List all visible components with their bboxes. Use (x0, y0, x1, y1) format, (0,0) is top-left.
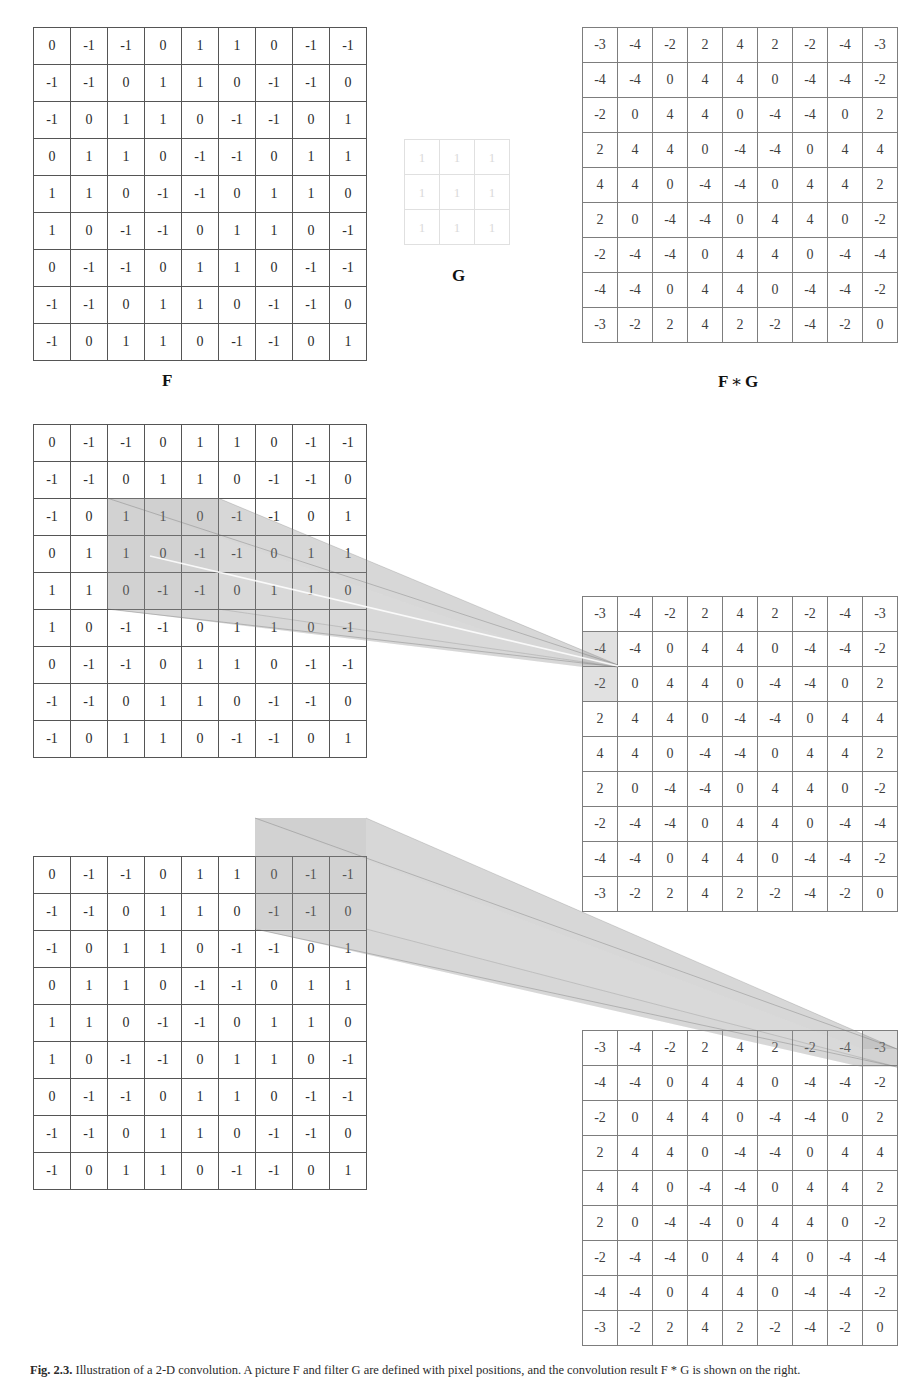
matrix-f-top-cell-r2-c3: 0 (108, 65, 145, 102)
matrix-f-top-cell-r9-c2: 0 (71, 324, 108, 361)
matrix-f-bottom-cell-r1-c7: 0 (256, 857, 293, 894)
matrix-f-top-cell-r1-c9: -1 (330, 28, 367, 65)
matrix-f-top-row: 0-1-10110-1-1 (34, 28, 367, 65)
matrix-fg-bottom-cell-r6-c5: 0 (723, 1206, 758, 1241)
matrix-fg-bottom-cell-r1-c4: 2 (688, 1031, 723, 1066)
matrix-f-top-cell-r8-c8: -1 (293, 287, 330, 324)
matrix-f-bottom-cell-r4-c7: 0 (256, 968, 293, 1005)
matrix-fg-bottom-cell-r1-c5: 4 (723, 1031, 758, 1066)
matrix-fg-top-cell-r4-c9: 4 (863, 133, 898, 168)
matrix-fg-middle-cell-r7-c9: -4 (863, 807, 898, 842)
matrix-f-bottom-cell-r2-c3: 0 (108, 894, 145, 931)
matrix-fg-bottom-cell-r7-c9: -4 (863, 1241, 898, 1276)
matrix-f-bottom-cell-r6-c4: -1 (145, 1042, 182, 1079)
matrix-fg-bottom-row: 2440-4-4044 (583, 1136, 898, 1171)
matrix-fg-middle-cell-r9-c2: -2 (618, 877, 653, 912)
matrix-f-bottom-cell-r9-c5: 0 (182, 1153, 219, 1190)
matrix-f-middle-cell-r6-c7: 1 (256, 610, 293, 647)
matrix-f-middle-cell-r2-c4: 1 (145, 462, 182, 499)
matrix-fg-middle: -3-4-2242-2-4-3-4-40440-4-4-2-20440-4-40… (582, 596, 898, 912)
matrix-f-middle-cell-r5-c1: 1 (34, 573, 71, 610)
matrix-f-middle-cell-r4-c7: 0 (256, 536, 293, 573)
matrix-fg-top-row: -3-4-2242-2-4-3 (583, 28, 898, 63)
matrix-fg-bottom-row: -3-2242-2-4-20 (583, 1311, 898, 1346)
matrix-f-middle-cell-r3-c4: 1 (145, 499, 182, 536)
matrix-fg-middle-cell-r6-c7: 4 (793, 772, 828, 807)
matrix-f-top-cell-r6-c8: 0 (293, 213, 330, 250)
matrix-f-bottom-cell-r2-c5: 1 (182, 894, 219, 931)
matrix-fg-top-cell-r2-c8: -4 (828, 63, 863, 98)
matrix-fg-top-cell-r6-c3: -4 (653, 203, 688, 238)
matrix-f-top-cell-r9-c7: -1 (256, 324, 293, 361)
matrix-f-top-cell-r8-c1: -1 (34, 287, 71, 324)
matrix-f-middle-row: -10110-1-101 (34, 499, 367, 536)
matrix-fg-bottom-cell-r2-c5: 4 (723, 1066, 758, 1101)
matrix-fg-middle-cell-r2-c8: -4 (828, 632, 863, 667)
matrix-f-bottom-cell-r2-c6: 0 (219, 894, 256, 931)
matrix-fg-bottom-row: -3-4-2242-2-4-3 (583, 1031, 898, 1066)
matrix-fg-bottom-cell-r7-c5: 4 (723, 1241, 758, 1276)
matrix-fg-middle-cell-r3-c8: 0 (828, 667, 863, 702)
matrix-fg-bottom-cell-r2-c6: 0 (758, 1066, 793, 1101)
matrix-f-middle-cell-r8-c5: 1 (182, 684, 219, 721)
matrix-fg-bottom-cell-r1-c6: 2 (758, 1031, 793, 1066)
matrix-f-bottom-cell-r7-c4: 0 (145, 1079, 182, 1116)
matrix-f-middle-cell-r6-c4: -1 (145, 610, 182, 647)
matrix-fg-bottom-cell-r7-c8: -4 (828, 1241, 863, 1276)
matrix-fg-middle-cell-r3-c2: 0 (618, 667, 653, 702)
matrix-fg-top-cell-r1-c6: 2 (758, 28, 793, 63)
matrix-fg-top-cell-r2-c6: 0 (758, 63, 793, 98)
matrix-f-bottom-cell-r3-c2: 0 (71, 931, 108, 968)
matrix-fg-top-cell-r1-c1: -3 (583, 28, 618, 63)
matrix-fg-bottom-cell-r3-c5: 0 (723, 1101, 758, 1136)
matrix-fg-bottom-cell-r5-c1: 4 (583, 1171, 618, 1206)
matrix-f-bottom-cell-r9-c1: -1 (34, 1153, 71, 1190)
matrix-fg-top-cell-r5-c1: 4 (583, 168, 618, 203)
matrix-f-bottom-cell-r3-c6: -1 (219, 931, 256, 968)
matrix-fg-middle-cell-r8-c8: -4 (828, 842, 863, 877)
matrix-fg-middle-cell-r9-c5: 2 (723, 877, 758, 912)
matrix-fg-top-cell-r3-c2: 0 (618, 98, 653, 133)
matrix-fg-middle-cell-r9-c1: -3 (583, 877, 618, 912)
matrix-fg-top-cell-r1-c2: -4 (618, 28, 653, 63)
matrix-f-bottom-row: -1-10110-1-10 (34, 1116, 367, 1153)
matrix-fg-bottom-cell-r3-c2: 0 (618, 1101, 653, 1136)
matrix-fg-top-row: -4-40440-4-4-2 (583, 273, 898, 308)
matrix-f-bottom-cell-r2-c1: -1 (34, 894, 71, 931)
matrix-f-bottom-cell-r5-c7: 1 (256, 1005, 293, 1042)
matrix-fg-top-cell-r5-c5: -4 (723, 168, 758, 203)
matrix-f-top-cell-r2-c6: 0 (219, 65, 256, 102)
matrix-fg-top-cell-r6-c4: -4 (688, 203, 723, 238)
matrix-fg-bottom-cell-r4-c8: 4 (828, 1136, 863, 1171)
matrix-fg-bottom-cell-r4-c5: -4 (723, 1136, 758, 1171)
matrix-fg-middle-cell-r5-c1: 4 (583, 737, 618, 772)
matrix-f-middle-cell-r3-c1: -1 (34, 499, 71, 536)
matrix-f-middle-cell-r1-c8: -1 (293, 425, 330, 462)
matrix-fg-bottom-row: -2-4-40440-4-4 (583, 1241, 898, 1276)
matrix-f-top-row: 0110-1-1011 (34, 139, 367, 176)
matrix-f-bottom-cell-r4-c5: -1 (182, 968, 219, 1005)
matrix-f-middle-cell-r9-c1: -1 (34, 721, 71, 758)
matrix-f-bottom-cell-r5-c1: 1 (34, 1005, 71, 1042)
matrix-f-bottom-cell-r7-c7: 0 (256, 1079, 293, 1116)
matrix-f-bottom-cell-r4-c9: 1 (330, 968, 367, 1005)
matrix-fg-top-cell-r9-c8: -2 (828, 308, 863, 343)
matrix-g-kernel-row: 111 (405, 210, 510, 245)
matrix-f-bottom-cell-r5-c2: 1 (71, 1005, 108, 1042)
matrix-f-bottom-cell-r1-c5: 1 (182, 857, 219, 894)
matrix-fg-bottom-cell-r9-c8: -2 (828, 1311, 863, 1346)
matrix-fg-top-cell-r7-c3: -4 (653, 238, 688, 273)
matrix-fg-middle-cell-r3-c3: 4 (653, 667, 688, 702)
matrix-f-middle-cell-r7-c9: -1 (330, 647, 367, 684)
matrix-fg-bottom-cell-r5-c6: 0 (758, 1171, 793, 1206)
matrix-f-middle-cell-r2-c3: 0 (108, 462, 145, 499)
matrix-fg-bottom-cell-r6-c6: 4 (758, 1206, 793, 1241)
matrix-f-bottom-cell-r9-c4: 1 (145, 1153, 182, 1190)
matrix-f-top-cell-r2-c2: -1 (71, 65, 108, 102)
matrix-f-top-cell-r6-c9: -1 (330, 213, 367, 250)
matrix-fg-top-cell-r8-c8: -4 (828, 273, 863, 308)
matrix-fg-middle-cell-r5-c8: 4 (828, 737, 863, 772)
matrix-fg-middle-cell-r7-c7: 0 (793, 807, 828, 842)
matrix-fg-top-cell-r8-c9: -2 (863, 273, 898, 308)
matrix-fg-bottom-cell-r8-c8: -4 (828, 1276, 863, 1311)
